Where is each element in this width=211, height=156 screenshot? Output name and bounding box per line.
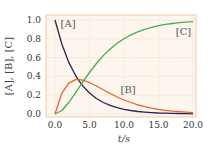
x-axis-label: t/s xyxy=(118,133,131,144)
annotation-label: [B] xyxy=(121,84,136,95)
y-axis-label: [A], [B], [C] xyxy=(3,37,14,95)
y-tick-label: 1.0 xyxy=(27,15,42,25)
plot-background xyxy=(46,15,196,117)
y-tick-label: 0.8 xyxy=(27,34,42,44)
x-tick-label: 0.0 xyxy=(48,120,63,130)
y-tick-label: 0.0 xyxy=(27,109,42,119)
concentration-chart: 0.00.20.40.60.81.0 0.05.010.015.020.0 [A… xyxy=(0,0,211,156)
y-axis-ticks: 0.00.20.40.60.81.0 xyxy=(27,15,42,119)
x-tick-label: 10.0 xyxy=(114,120,134,130)
y-tick-label: 0.2 xyxy=(27,90,41,100)
annotation-label: [C] xyxy=(176,26,192,37)
y-tick-label: 0.6 xyxy=(27,53,42,63)
x-tick-label: 20.0 xyxy=(183,120,203,130)
x-axis-ticks: 0.05.010.015.020.0 xyxy=(48,120,203,130)
y-tick-label: 0.4 xyxy=(27,71,42,81)
x-tick-label: 5.0 xyxy=(82,120,97,130)
x-tick-label: 15.0 xyxy=(148,120,168,130)
annotation-label: [A] xyxy=(61,18,76,29)
